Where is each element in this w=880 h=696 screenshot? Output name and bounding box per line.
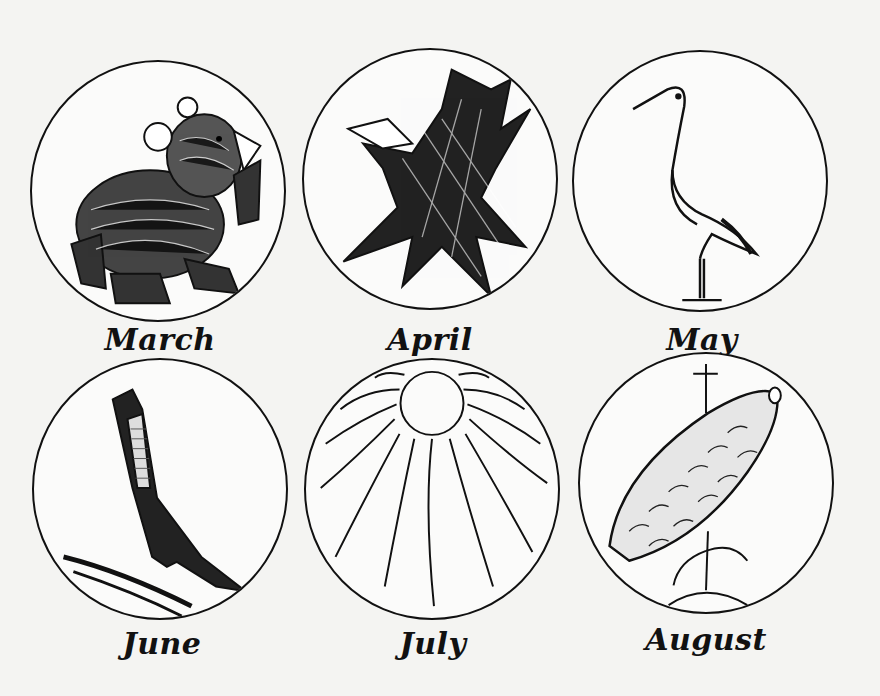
month-label: July	[333, 626, 533, 661]
swallow-icon	[32, 358, 288, 620]
stork-icon	[572, 50, 828, 312]
month-label: August	[606, 622, 806, 657]
corn-icon	[578, 352, 834, 614]
bear-icon	[30, 60, 286, 322]
month-label: June	[62, 626, 262, 661]
crow-icon	[302, 48, 558, 310]
month-label: April	[330, 322, 530, 357]
month-label: March	[60, 322, 260, 357]
sun-icon	[304, 358, 560, 620]
